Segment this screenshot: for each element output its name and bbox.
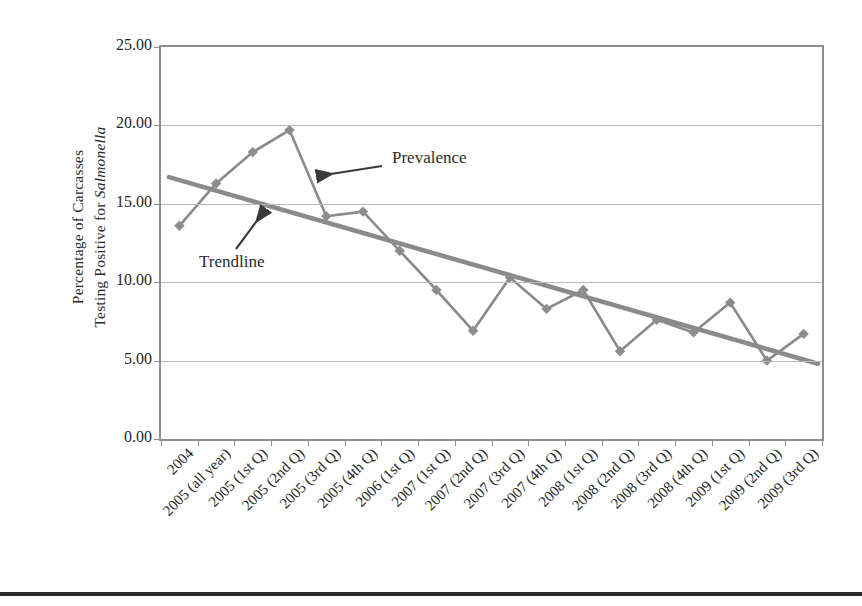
y-axis-tick-label: 20.00 (66, 114, 152, 132)
gridline (161, 204, 822, 205)
y-axis-tick-mark (154, 204, 161, 205)
plot-area (159, 45, 824, 441)
y-axis-tick-label: 5.00 (66, 350, 152, 368)
prevalence-line-path (179, 130, 803, 361)
trendline-path (169, 177, 818, 364)
chart-figure: Percentage of Carcasses Testing Positive… (0, 0, 862, 606)
y-axis-tick-label: 25.00 (66, 36, 152, 54)
series-layer (161, 47, 822, 439)
gridline (161, 125, 822, 126)
y-axis-tick-label: 10.00 (66, 271, 152, 289)
y-axis-tick-mark (154, 47, 161, 48)
page-bottom-rule (0, 592, 862, 596)
annotation-label-trendline: Trendline (199, 252, 265, 272)
annotation-label-prevalence: Prevalence (392, 148, 467, 168)
x-axis-tick-labels: 20042005 (all year)2005 (1st Q)2005 (2nd… (159, 437, 820, 597)
y-axis-tick-mark (154, 282, 161, 283)
y-axis-tick-labels: 0.005.0010.0015.0020.0025.00 (60, 0, 152, 606)
y-axis-tick-mark (154, 125, 161, 126)
y-axis-tick-label: 15.00 (66, 193, 152, 211)
y-axis-tick-label: 0.00 (66, 428, 152, 446)
y-axis-tick-mark (154, 361, 161, 362)
gridline (161, 361, 822, 362)
gridline (161, 282, 822, 283)
